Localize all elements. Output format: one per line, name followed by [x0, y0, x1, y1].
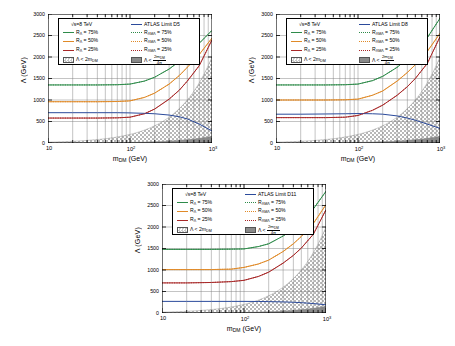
- legend-swatch-rmm: [245, 211, 256, 212]
- legend-swatch-rlambda: [291, 32, 302, 33]
- legend-swatch-rmm: [131, 50, 142, 51]
- legend-swatch-rmm: [131, 32, 142, 33]
- legend-rmm-label: RΛMΛ = 50%: [144, 38, 172, 44]
- y-tick-label: 3000: [138, 181, 159, 187]
- legend-header-row: √s=8 TeVATLAS Limit D5: [61, 20, 197, 29]
- legend-rlambda-cell: RΛ = 50%: [61, 37, 129, 46]
- x-axis-label: mDM (GeV): [336, 155, 380, 163]
- y-tick-label: 2500: [138, 202, 159, 208]
- y-axis-label: Λ (GeV): [248, 57, 255, 83]
- legend-swatch-rlambda: [63, 32, 74, 33]
- legend-energy-label: √s=8 TeV: [61, 21, 92, 27]
- x-axis-label: mDM (GeV): [222, 325, 266, 333]
- legend-swatch-rlambda: [177, 202, 188, 203]
- legend-swatch-region-dark: [245, 227, 256, 233]
- y-axis-label: Λ (GeV): [20, 57, 27, 83]
- y-tick-label: 2000: [138, 224, 159, 230]
- legend-row: RΛ = 50%RΛMΛ = 50%: [175, 207, 311, 216]
- legend-rlambda-cell: RΛ = 25%: [175, 216, 243, 225]
- figure-root: 05001000150020002500300010102103Λ (GeV)m…: [0, 0, 455, 346]
- legend-swatch-rlambda: [63, 41, 74, 42]
- y-tick-label: 1000: [24, 97, 45, 103]
- y-tick-label: 500: [138, 288, 159, 294]
- panel-d5: 05001000150020002500300010102103Λ (GeV)m…: [18, 8, 218, 173]
- legend-rlambda-cell: RΛ = 25%: [61, 46, 129, 55]
- legend-rlambda-label: RΛ = 50%: [304, 38, 326, 44]
- legend-rmm-cell: RΛMΛ = 25%: [243, 216, 311, 225]
- x-tick-label: 103: [320, 315, 334, 322]
- panel-d8: 05001000150020002500300010102103Λ (GeV)m…: [246, 8, 446, 173]
- x-tick-label: 103: [206, 145, 220, 152]
- legend-energy-label: √s=8 TeV: [289, 21, 320, 27]
- legend-swatch-rlambda: [291, 50, 302, 51]
- legend-swatch-rmm: [245, 220, 256, 221]
- legend-rlambda-label: RΛ = 25%: [76, 47, 98, 53]
- legend-region-dark-cell: Λ < 2mDM4π: [129, 54, 197, 65]
- y-tick-label: 1500: [24, 75, 45, 81]
- legend-swatch-region-light: [177, 227, 188, 233]
- y-tick-label: 3000: [252, 11, 273, 17]
- legend-rlambda-label: RΛ = 25%: [304, 47, 326, 53]
- legend-swatch-rlambda: [291, 41, 302, 42]
- legend-energy-cell: √s=8 TeV: [61, 20, 129, 29]
- legend-row: RΛ = 50%RΛMΛ = 50%: [61, 37, 197, 46]
- x-tick-label: 102: [352, 145, 366, 152]
- legend-rmm-label: RΛMΛ = 25%: [144, 47, 172, 53]
- legend-rmm-cell: RΛMΛ = 50%: [243, 207, 311, 216]
- legend-region-light-cell: Λ < 2mDM: [289, 54, 357, 65]
- legend-rmm-cell: RΛMΛ = 75%: [357, 29, 425, 38]
- y-tick-label: 1500: [138, 245, 159, 251]
- legend-rmm-label: RΛMΛ = 50%: [258, 208, 286, 214]
- legend-atlas-label: ATLAS Limit D11: [258, 192, 296, 197]
- legend-rmm-label: RΛMΛ = 25%: [372, 47, 400, 53]
- legend-region-row: Λ < 2mDMΛ < 2mDM4π: [289, 54, 425, 65]
- legend-swatch-rmm: [359, 32, 370, 33]
- legend-rlambda-cell: RΛ = 75%: [175, 199, 243, 208]
- legend-swatch-rlambda: [63, 50, 74, 51]
- y-tick-label: 1000: [138, 267, 159, 273]
- legend-rlambda-cell: RΛ = 50%: [289, 37, 357, 46]
- y-tick-label: 2000: [24, 54, 45, 60]
- legend-rlambda-cell: RΛ = 75%: [289, 29, 357, 38]
- legend-rlambda-label: RΛ = 25%: [190, 217, 212, 223]
- x-tick-label: 103: [434, 145, 448, 152]
- legend-row: RΛ = 75%RΛMΛ = 75%: [289, 29, 425, 38]
- y-tick-label: 1000: [252, 97, 273, 103]
- legend-rmm-cell: RΛMΛ = 25%: [357, 46, 425, 55]
- legend-atlas-cell: ATLAS Limit D8: [357, 20, 425, 29]
- legend-swatch-rlambda: [177, 220, 188, 221]
- legend-swatch-region-dark: [359, 57, 370, 63]
- legend-swatch-rlambda: [177, 211, 188, 212]
- legend: √s=8 TeVATLAS Limit D5RΛ = 75%RΛMΛ = 75%…: [58, 18, 200, 65]
- legend-swatch-rmm: [245, 202, 256, 203]
- x-tick-label: 10: [42, 145, 56, 151]
- legend-rlambda-label: RΛ = 50%: [190, 208, 212, 214]
- legend-region-row: Λ < 2mDMΛ < 2mDM4π: [175, 224, 311, 235]
- legend-row: RΛ = 75%RΛMΛ = 75%: [61, 29, 197, 38]
- legend: √s=8 TeVATLAS Limit D8RΛ = 75%RΛMΛ = 75%…: [286, 18, 428, 65]
- x-tick-label: 102: [238, 315, 252, 322]
- y-tick-label: 2000: [252, 54, 273, 60]
- legend-rmm-cell: RΛMΛ = 75%: [129, 29, 197, 38]
- y-tick-label: 500: [252, 118, 273, 124]
- legend-atlas-label: ATLAS Limit D5: [144, 22, 180, 27]
- legend-swatch-rmm: [359, 50, 370, 51]
- panel-d11: 05001000150020002500300010102103Λ (GeV)m…: [132, 178, 332, 343]
- y-tick-label: 500: [24, 118, 45, 124]
- legend-rmm-label: RΛMΛ = 75%: [258, 200, 286, 206]
- legend-header-row: √s=8 TeVATLAS Limit D8: [289, 20, 425, 29]
- legend-row: RΛ = 50%RΛMΛ = 50%: [289, 37, 425, 46]
- legend-energy-cell: √s=8 TeV: [289, 20, 357, 29]
- legend-region-light-cell: Λ < 2mDM: [61, 54, 129, 65]
- legend-atlas-label: ATLAS Limit D8: [372, 22, 408, 27]
- x-tick-label: 10: [270, 145, 284, 151]
- legend-swatch-atlas: [245, 194, 256, 195]
- legend-region-row: Λ < 2mDMΛ < 2mDM4π: [61, 54, 197, 65]
- legend-row: RΛ = 75%RΛMΛ = 75%: [175, 199, 311, 208]
- legend-region-dark-cell: Λ < 2mDM4π: [243, 224, 311, 235]
- legend-rmm-cell: RΛMΛ = 50%: [357, 37, 425, 46]
- legend-row: RΛ = 25%RΛMΛ = 25%: [175, 216, 311, 225]
- legend-row: RΛ = 25%RΛMΛ = 25%: [61, 46, 197, 55]
- legend-region-dark-label: Λ < 2mDM4π: [144, 55, 166, 65]
- legend-energy-cell: √s=8 TeV: [175, 190, 243, 199]
